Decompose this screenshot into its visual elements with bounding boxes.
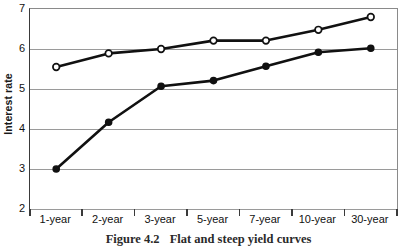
y-tick-label: 7	[12, 2, 29, 14]
figure-caption-label: Figure 4.2	[106, 232, 160, 246]
data-point-filled-circle-30-year	[368, 45, 374, 51]
data-point-open-circle-7-year	[263, 37, 270, 44]
x-tick-label-10-year: 10-year	[299, 213, 336, 225]
data-point-open-circle-2-year	[105, 50, 112, 57]
data-point-open-circle-1-year	[53, 64, 60, 71]
data-point-open-circle-10-year	[315, 27, 322, 34]
data-point-open-circle-30-year	[367, 14, 374, 21]
x-tick-label-5-year: 5-year	[197, 213, 228, 225]
data-point-open-circle-5-year	[210, 37, 217, 44]
data-point-filled-circle-3-year	[158, 83, 164, 89]
x-tick-label-3-year: 3-year	[144, 213, 175, 225]
data-point-filled-circle-7-year	[263, 63, 269, 69]
x-axis-tick-labels: 1-year2-year3-year5-year7-year10-year30-…	[29, 213, 398, 231]
x-tick-label-7-year: 7-year	[249, 213, 280, 225]
data-point-open-circle-3-year	[158, 46, 165, 53]
data-point-filled-circle-1-year	[53, 166, 59, 172]
plot-area	[29, 8, 398, 210]
data-point-filled-circle-2-year	[106, 119, 112, 125]
x-tick-label-30-year: 30-year	[351, 213, 388, 225]
y-tick-label: 5	[12, 82, 29, 94]
x-tick-label-2-year: 2-year	[92, 213, 123, 225]
figure-caption: Figure 4.2 Flat and steep yield curves	[0, 232, 417, 246]
y-tick-label: 3	[12, 162, 29, 174]
plot-inner	[30, 9, 397, 209]
figure-caption-text: Flat and steep yield curves	[170, 232, 312, 246]
y-tick-label: 4	[12, 122, 29, 134]
x-tick-label-1-year: 1-year	[40, 213, 71, 225]
data-point-filled-circle-5-year	[210, 78, 216, 84]
y-tick-label: 2	[12, 202, 29, 214]
figure-container: Interest rate 234567 1-year2-year3-year5…	[0, 0, 417, 246]
data-point-filled-circle-10-year	[315, 49, 321, 55]
y-axis-tick-labels: 234567	[12, 0, 29, 246]
series-line-2	[56, 48, 371, 169]
chart-series-svg	[30, 9, 397, 209]
y-tick-label: 6	[12, 42, 29, 54]
